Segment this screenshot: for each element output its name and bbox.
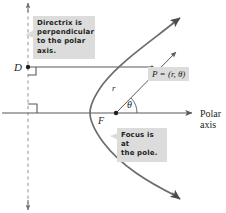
label-radius-r: r [112,83,116,93]
right-angle-marker-at-axis [28,104,37,113]
point-dot-d [26,65,30,69]
point-dot-f [114,111,118,115]
polar-conic-figure: Directrix is perpendicular to the polar … [0,0,226,213]
parabola-curve [90,18,180,199]
callout-directrix: Directrix is perpendicular to the polar … [33,16,95,59]
label-polar-axis: Polar axis [200,108,221,130]
label-point-f: F [98,115,104,126]
label-point-d: D [14,61,22,73]
label-angle-theta: θ [127,99,132,110]
callout-focus: Focus is at the pole. [117,128,167,162]
label-point-p: P = (r, θ) [148,67,189,81]
